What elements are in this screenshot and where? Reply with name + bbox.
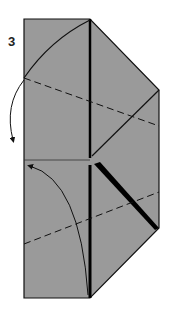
fold-behind-arrow (10, 80, 24, 140)
origami-diagram (0, 0, 178, 311)
